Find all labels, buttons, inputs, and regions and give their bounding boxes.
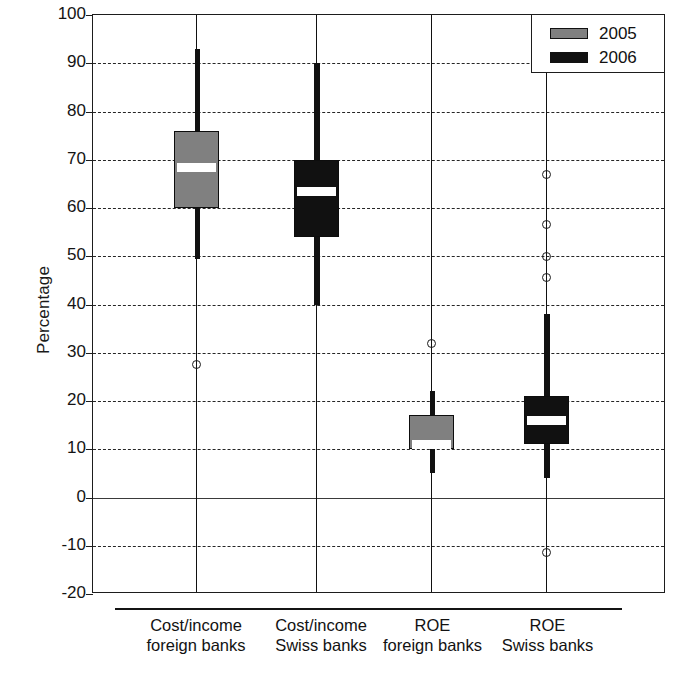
y-tick-label: 60 bbox=[40, 198, 86, 215]
median-line bbox=[297, 187, 336, 196]
x-axis-category-labels: Cost/incomeforeign banksCost/incomeSwiss… bbox=[92, 608, 665, 678]
y-tick-mark bbox=[86, 160, 93, 161]
y-tick-label: 90 bbox=[40, 53, 86, 70]
category-label-rule bbox=[473, 608, 622, 610]
legend-swatch bbox=[550, 52, 588, 63]
median-line bbox=[412, 440, 451, 449]
y-tick-label: 100 bbox=[40, 5, 86, 22]
y-tick-label: 50 bbox=[40, 246, 86, 263]
y-tick-mark bbox=[86, 256, 93, 257]
box-plot-group bbox=[93, 15, 664, 592]
legend-swatch bbox=[550, 28, 588, 39]
outlier-point bbox=[542, 252, 551, 261]
y-tick-label: 70 bbox=[40, 150, 86, 167]
legend-label: 2005 bbox=[599, 25, 637, 42]
box-iqr bbox=[294, 160, 339, 237]
y-tick-mark bbox=[86, 63, 93, 64]
y-tick-label: 10 bbox=[40, 439, 86, 456]
outlier-point bbox=[427, 339, 436, 348]
outlier-point bbox=[542, 548, 551, 557]
outlier-point bbox=[192, 360, 201, 369]
category-center-line bbox=[546, 15, 547, 592]
y-tick-mark bbox=[86, 546, 93, 547]
median-line bbox=[527, 416, 566, 425]
legend-item: 2006 bbox=[550, 47, 664, 68]
y-tick-mark bbox=[86, 353, 93, 354]
legend-label: 2006 bbox=[599, 49, 637, 66]
y-tick-mark bbox=[86, 498, 93, 499]
legend-item: 2005 bbox=[550, 23, 664, 44]
outlier-point bbox=[542, 220, 551, 229]
y-tick-mark bbox=[86, 449, 93, 450]
category-label-line2: Swiss banks bbox=[460, 635, 635, 655]
y-tick-label: 20 bbox=[40, 391, 86, 408]
y-tick-label: -10 bbox=[40, 536, 86, 553]
category-label-line1: ROE bbox=[460, 615, 635, 635]
y-tick-label: 30 bbox=[40, 343, 86, 360]
box-plot-chart: Percentage 1009080706050403020100-10-20 … bbox=[0, 0, 675, 685]
y-tick-mark bbox=[86, 15, 93, 16]
y-tick-mark bbox=[86, 594, 93, 595]
y-tick-mark bbox=[86, 305, 93, 306]
median-line bbox=[177, 163, 216, 172]
y-tick-label: 40 bbox=[40, 295, 86, 312]
category-label: ROESwiss banks bbox=[460, 608, 635, 655]
plot-area: 20052006 bbox=[92, 14, 665, 593]
y-tick-label: -20 bbox=[40, 584, 86, 601]
y-tick-mark bbox=[86, 112, 93, 113]
y-tick-label: 80 bbox=[40, 102, 86, 119]
outlier-point bbox=[542, 273, 551, 282]
outlier-point bbox=[542, 170, 551, 179]
y-tick-mark bbox=[86, 401, 93, 402]
y-tick-mark bbox=[86, 208, 93, 209]
legend: 20052006 bbox=[531, 15, 664, 73]
y-tick-label: 0 bbox=[40, 488, 86, 505]
y-axis-tick-labels: 1009080706050403020100-10-20 bbox=[34, 0, 86, 685]
